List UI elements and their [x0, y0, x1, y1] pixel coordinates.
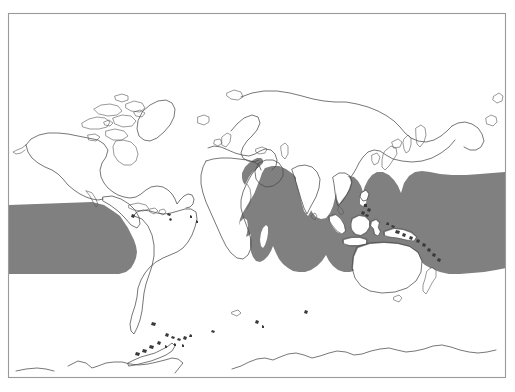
world-distribution-map [0, 0, 515, 392]
screenshot-root: Distribution range [0, 0, 515, 392]
map-canvas [0, 0, 515, 392]
